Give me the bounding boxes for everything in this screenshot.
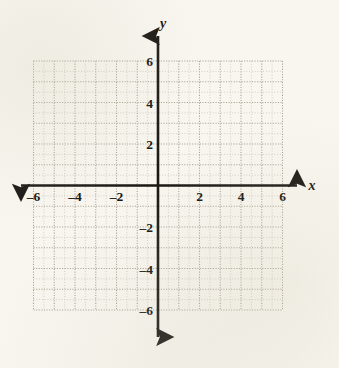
y-tick-label: –6 bbox=[139, 303, 154, 318]
y-axis-name: y bbox=[158, 16, 167, 31]
y-tick-label: –2 bbox=[139, 220, 154, 235]
x-tick-label: 6 bbox=[279, 189, 286, 204]
x-tick-label: –2 bbox=[109, 189, 124, 204]
x-tick-label: 4 bbox=[238, 189, 245, 204]
axis-lines bbox=[21, 36, 297, 337]
coordinate-plane-svg: –6–4–2246 642–2–4–6 x y bbox=[0, 0, 339, 368]
y-tick-label: 4 bbox=[146, 96, 153, 111]
x-tick-label: 2 bbox=[196, 189, 203, 204]
y-tick-label: –4 bbox=[139, 262, 154, 277]
y-tick-label: 2 bbox=[146, 137, 153, 152]
x-axis-name: x bbox=[308, 178, 316, 193]
x-tick-label: –4 bbox=[67, 189, 82, 204]
graph-figure: –6–4–2246 642–2–4–6 x y bbox=[0, 0, 339, 368]
x-tick-label: –6 bbox=[26, 189, 41, 204]
y-tick-label: 6 bbox=[146, 54, 153, 69]
